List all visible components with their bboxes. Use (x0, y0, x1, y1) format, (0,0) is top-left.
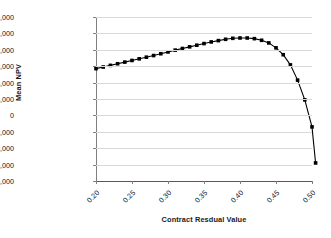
data-point-marker (238, 36, 242, 40)
gridline (96, 83, 312, 84)
y-axis-tick (93, 50, 96, 51)
data-point-marker (94, 67, 98, 71)
gridline (96, 66, 312, 67)
gridline (96, 33, 312, 34)
x-axis-tick (240, 181, 241, 184)
y-axis-tick-label: 0 (0, 111, 14, 120)
data-point-marker (159, 52, 163, 56)
y-axis-tick-label: 2,000,000 (0, 79, 14, 88)
y-axis-tick (93, 132, 96, 133)
data-point-marker (267, 41, 271, 45)
series-path (96, 38, 316, 163)
gridline (96, 165, 312, 166)
gridline (96, 148, 312, 149)
gridline (96, 17, 312, 18)
chart-container: Mean NPV Contract Resdual Value 6,000,00… (0, 0, 331, 238)
data-point-marker (137, 57, 141, 61)
x-axis-tick (132, 181, 133, 184)
data-point-marker (281, 53, 285, 57)
plot-area (96, 17, 312, 181)
data-point-marker (310, 125, 314, 129)
data-point-marker (231, 37, 235, 41)
y-axis-tick (93, 115, 96, 116)
y-axis-tick (93, 165, 96, 166)
y-axis-tick (93, 148, 96, 149)
x-axis-tick (168, 181, 169, 184)
y-axis-tick (93, 66, 96, 67)
y-axis-tick-label: -4,000,000 (0, 177, 14, 186)
y-axis-tick-label: -3,000,000 (0, 161, 14, 170)
x-axis-tick (276, 181, 277, 184)
y-axis-title: Mean NPV (14, 43, 23, 123)
data-point-marker (314, 161, 318, 165)
data-point-marker (260, 38, 264, 42)
y-axis-tick (93, 83, 96, 84)
x-axis-tick (204, 181, 205, 184)
y-axis-tick (93, 17, 96, 18)
y-axis-tick-label: -1,000,000 (0, 128, 14, 137)
y-axis-tick (93, 99, 96, 100)
y-axis-tick-label: 4,000,000 (0, 46, 14, 55)
data-point-marker (245, 36, 249, 40)
y-axis-tick-label: 6,000,000 (0, 13, 14, 22)
y-axis-tick (93, 33, 96, 34)
y-axis-tick-label: 5,000,000 (0, 29, 14, 38)
data-point-marker (145, 55, 149, 59)
data-point-marker (116, 62, 120, 66)
gridline (96, 99, 312, 100)
data-point-marker (195, 43, 199, 47)
gridline (96, 50, 312, 51)
gridline (96, 132, 312, 133)
y-axis-tick-label: 1,000,000 (0, 95, 14, 104)
data-point-marker (123, 60, 127, 64)
data-point-marker (217, 39, 221, 43)
data-point-marker (188, 45, 192, 49)
x-axis-tick (312, 181, 313, 184)
data-point-marker (209, 40, 213, 44)
data-point-marker (202, 42, 206, 46)
data-point-marker (296, 78, 300, 82)
data-point-marker (152, 54, 156, 58)
y-axis-tick-label: -2,000,000 (0, 144, 14, 153)
data-point-marker (130, 59, 134, 63)
y-axis-tick-label: 3,000,000 (0, 62, 14, 71)
data-point-marker (224, 38, 228, 42)
x-axis-tick (96, 181, 97, 184)
data-point-marker (253, 37, 257, 41)
gridline (96, 115, 312, 116)
